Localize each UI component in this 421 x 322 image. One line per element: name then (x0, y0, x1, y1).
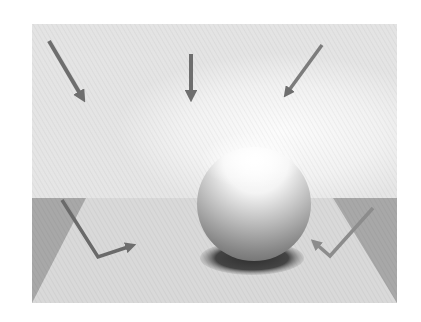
lighting-diagram (0, 0, 421, 322)
sphere-top-glow (200, 132, 304, 188)
